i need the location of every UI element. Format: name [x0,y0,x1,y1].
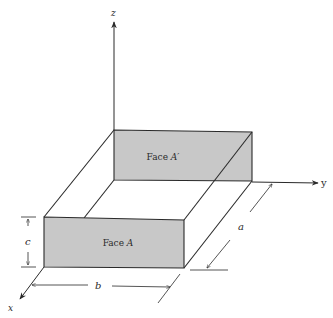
dimension-c-label: c [25,236,31,247]
dimension-c: c [21,217,36,267]
edge-bottom-left-inner [84,180,114,218]
z-axis: z [110,8,116,130]
face-a-prime-label: Face A′ [147,152,180,162]
z-axis-label: z [110,8,116,18]
edge-top-left [44,130,114,217]
box-diagram: z y x c b a [0,0,333,318]
y-axis-label: y [320,177,327,188]
x-axis: x [8,267,44,313]
face-a-prime [114,130,252,181]
dimension-b-label: b [95,280,101,291]
dimension-a-label: a [238,221,244,232]
x-axis-label: x [8,303,13,313]
face-a-label: Face A [103,238,134,248]
y-axis: y [252,177,327,188]
dimension-b: b [32,274,180,303]
